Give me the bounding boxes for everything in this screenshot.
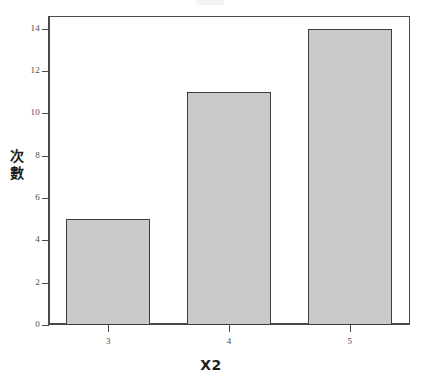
x-axis-tick-label: 5 <box>330 336 370 346</box>
bars-layer <box>48 16 410 325</box>
bar <box>308 29 392 325</box>
x-axis-tick-label: 4 <box>209 336 249 346</box>
y-axis-tick-label: 6 <box>14 193 40 202</box>
bar <box>187 92 271 325</box>
y-axis-tick <box>42 198 49 199</box>
y-axis-tick <box>42 113 49 114</box>
y-axis-title-char-2: 數 <box>8 165 26 182</box>
y-axis-tick <box>42 29 49 30</box>
y-axis-tick <box>42 283 49 284</box>
y-axis-tick-label: 0 <box>14 320 40 329</box>
y-axis-title-char-1: 次 <box>8 148 26 165</box>
y-axis-tick <box>42 240 49 241</box>
y-axis-tick-label: 2 <box>14 278 40 287</box>
bar <box>66 219 150 325</box>
y-axis-tick-label: 14 <box>14 24 40 33</box>
x-axis-title: X2 <box>0 357 422 373</box>
chart-title <box>0 0 422 2</box>
bar-chart: 02468101214 345 次 數 X2 <box>0 0 422 381</box>
y-axis-tick <box>42 325 49 326</box>
y-axis-tick <box>42 71 49 72</box>
x-axis-tick <box>229 325 230 332</box>
y-axis-tick-label: 10 <box>14 108 40 117</box>
y-axis-tick <box>42 156 49 157</box>
y-axis-tick-label: 12 <box>14 66 40 75</box>
x-axis-tick-label: 3 <box>88 336 128 346</box>
x-axis-tick <box>108 325 109 332</box>
x-axis-tick <box>350 325 351 332</box>
y-axis-tick-label: 4 <box>14 235 40 244</box>
y-axis-title: 次 數 <box>8 148 26 182</box>
